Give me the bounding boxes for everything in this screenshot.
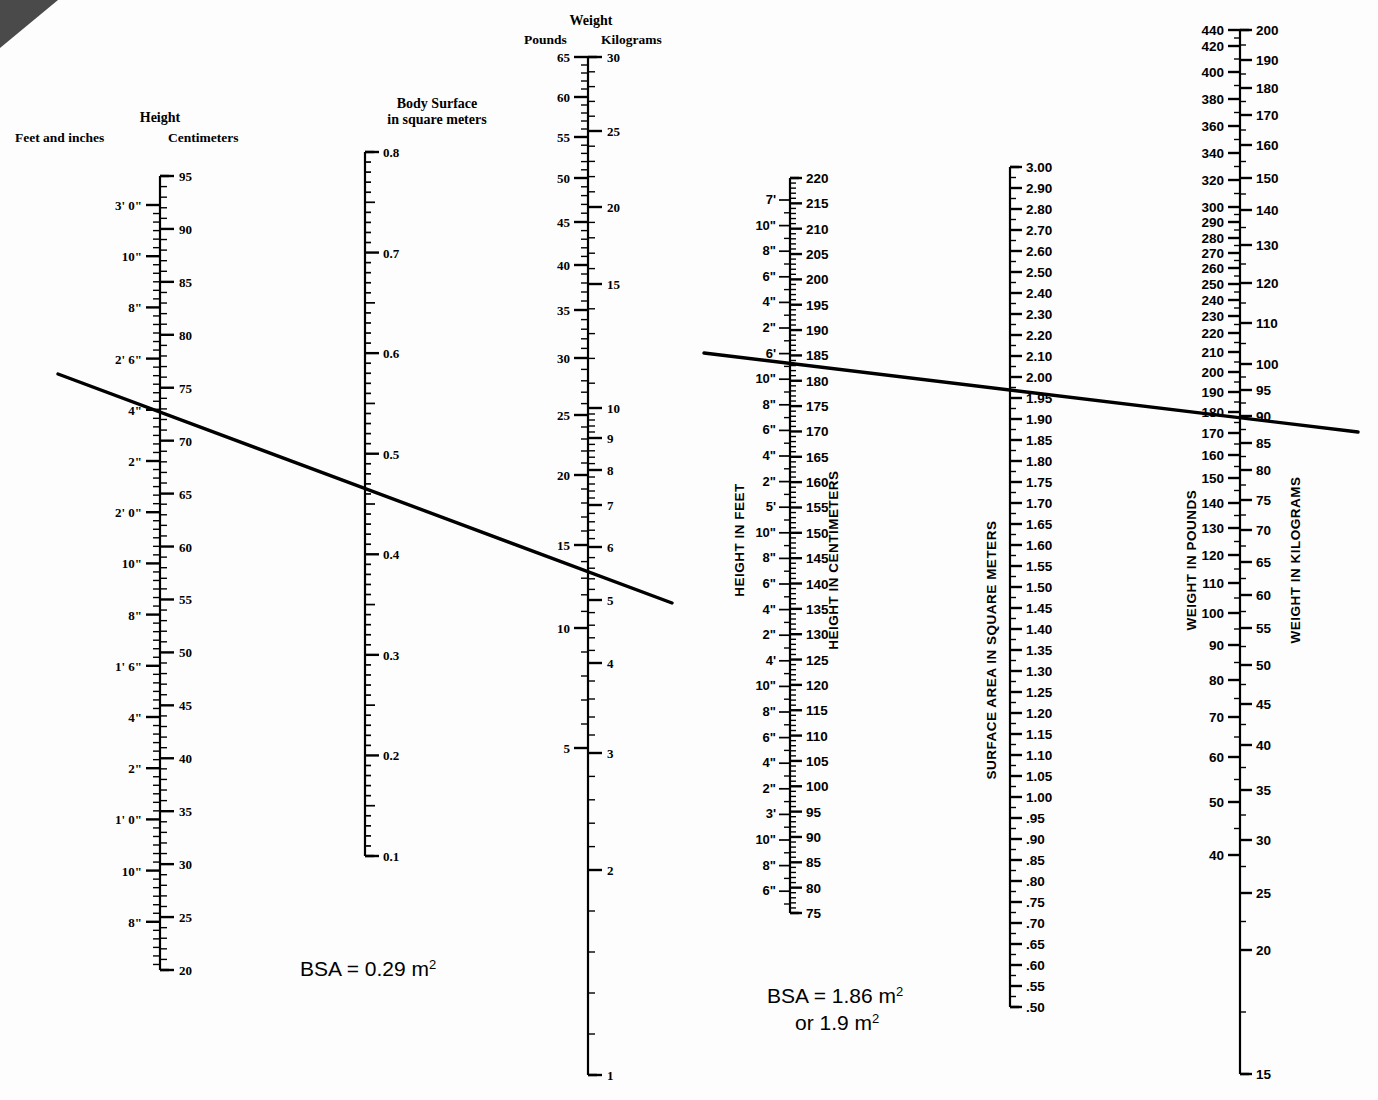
right-weight-kg-label: 15 <box>1256 1067 1272 1082</box>
left-bsa-label: 0.1 <box>383 849 399 864</box>
right-weight-kg-label: 35 <box>1256 783 1272 798</box>
right-surface-area-label: 2.20 <box>1026 328 1052 343</box>
right-weight-kg-label: 50 <box>1256 658 1271 673</box>
right-height-ft-label: 6" <box>763 269 776 284</box>
left-height-ft-label: 1' 6" <box>115 659 142 674</box>
left-bsa-label: 0.7 <box>383 246 400 261</box>
right-height-cm-label: 190 <box>806 323 829 338</box>
right-surface-area-label: 1.60 <box>1026 538 1052 553</box>
left-weight-lb-label: 10 <box>557 621 570 636</box>
right-surface-area-label: 2.00 <box>1026 370 1052 385</box>
left-height-header-title: Height <box>140 110 181 125</box>
left-weight-kg-header: Kilograms <box>601 32 662 47</box>
right-weight-lb-label: 240 <box>1201 293 1224 308</box>
right-surface-area-label: 1.70 <box>1026 496 1052 511</box>
right-height-cm-label: 175 <box>806 399 829 414</box>
right-height-cm-label: 180 <box>806 374 829 389</box>
left-weight-header-title: Weight <box>570 13 613 28</box>
right-height-ft-label: 10" <box>755 832 776 847</box>
left-height-cm-label: 50 <box>179 645 192 660</box>
left-height-ft-label: 10" <box>122 556 142 571</box>
right-surface-area-label: 1.40 <box>1026 622 1052 637</box>
left-weight-lb-header: Pounds <box>524 32 567 47</box>
right-weight-lb-label: 400 <box>1201 65 1224 80</box>
left-bsa-header-line2: in square meters <box>387 112 487 127</box>
left-bsa-label: 0.3 <box>383 648 400 663</box>
left-weight-kg-label: 7 <box>607 498 614 513</box>
right-surface-area-label: 2.40 <box>1026 286 1052 301</box>
right-height-ft-label: 4' <box>766 653 776 668</box>
right-weight-kg-label: 200 <box>1256 23 1279 38</box>
right-height-feet-axis-title: HEIGHT IN FEET <box>732 483 747 597</box>
left-height-cm-label: 65 <box>179 487 193 502</box>
left-height-ft-label: 2' 0" <box>115 505 142 520</box>
left-height-ft-label: 1' 0" <box>115 812 142 827</box>
right-surface-area-label: 2.70 <box>1026 223 1052 238</box>
right-weight-kg-label: 70 <box>1256 523 1271 538</box>
right-weight-kg-label: 85 <box>1256 436 1272 451</box>
right-height-ft-label: 8" <box>763 704 776 719</box>
left-weight-lb-label: 45 <box>557 215 571 230</box>
right-weight-lb-label: 70 <box>1209 710 1224 725</box>
left-weight-kg-label: 25 <box>607 124 621 139</box>
right-height-cm-label: 210 <box>806 222 829 237</box>
left-height-ft-label: 2" <box>128 761 142 776</box>
right-weight-lb-label: 300 <box>1201 200 1224 215</box>
right-height-cm-label: 115 <box>806 703 828 718</box>
right-surface-area-label: 1.00 <box>1026 790 1052 805</box>
left-height-cm-label: 25 <box>179 910 193 925</box>
right-weight-lb-label: 280 <box>1201 231 1224 246</box>
right-weight-kg-label: 180 <box>1256 81 1279 96</box>
right-weight-lb-label: 200 <box>1201 365 1224 380</box>
left-weight-lb-label: 5 <box>564 741 571 756</box>
right-weight-lb-label: 340 <box>1201 146 1224 161</box>
right-height-cm-label: 85 <box>806 855 822 870</box>
right-height-cm-label: 170 <box>806 424 829 439</box>
right-surface-area-label: 1.05 <box>1026 769 1053 784</box>
right-weight-lb-label: 60 <box>1209 750 1224 765</box>
right-weight-kg-label: 160 <box>1256 138 1279 153</box>
right-weight-lb-label: 120 <box>1201 548 1224 563</box>
left-weight-lb-label: 60 <box>557 90 570 105</box>
right-height-ft-label: 4" <box>763 448 776 463</box>
right-weight-lb-label: 290 <box>1201 215 1224 230</box>
right-height-ft-label: 4" <box>763 294 776 309</box>
nomogram-canvas: HeightFeet and inchesCentimetersBody Sur… <box>0 0 1378 1100</box>
right-surface-area-label: 3.00 <box>1026 160 1052 175</box>
right-height-ft-label: 5' <box>766 499 776 514</box>
right-weight-kg-label: 95 <box>1256 383 1272 398</box>
right-weight-kg-label: 140 <box>1256 203 1279 218</box>
left-height-cm-label: 55 <box>179 592 193 607</box>
right-height-ft-label: 8" <box>763 858 776 873</box>
left-weight-kg-label: 3 <box>607 746 614 761</box>
right-surface-area-label: .85 <box>1026 853 1045 868</box>
right-height-cm-axis-title: HEIGHT IN CENTIMETERS <box>826 470 841 649</box>
left-height-ft-label: 8" <box>128 608 142 623</box>
right-weight-kg-label: 120 <box>1256 276 1279 291</box>
left-height-ft-label: 2" <box>128 454 142 469</box>
right-weight-kg-label: 75 <box>1256 493 1272 508</box>
right-weight-lb-label: 320 <box>1201 173 1224 188</box>
right-surface-area-label: 1.45 <box>1026 601 1053 616</box>
right-height-ft-label: 2" <box>763 781 776 796</box>
left-height-ft-label: 3' 0" <box>115 198 142 213</box>
right-weight-lb-label: 210 <box>1201 345 1224 360</box>
left-weight-lb-label: 15 <box>557 538 571 553</box>
right-weight-kg-label: 20 <box>1256 943 1271 958</box>
left-weight-lb-label: 55 <box>557 130 571 145</box>
right-weight-kg-label: 55 <box>1256 621 1272 636</box>
left-bsa-label: 0.6 <box>383 346 400 361</box>
right-surface-area-label: 1.50 <box>1026 580 1052 595</box>
left-height-ft-label: 10" <box>122 864 142 879</box>
right-height-ft-label: 2" <box>763 320 776 335</box>
right-weight-kg-label: 40 <box>1256 738 1271 753</box>
right-surface-area-label: .70 <box>1026 916 1045 931</box>
right-height-cm-label: 125 <box>806 653 829 668</box>
right-weight-lb-label: 150 <box>1201 471 1224 486</box>
left-weight-lb-label: 65 <box>557 50 571 65</box>
left-weight-lb-label: 50 <box>557 171 570 186</box>
right-height-ft-label: 6" <box>763 883 776 898</box>
left-height-cm-label: 40 <box>179 751 192 766</box>
right-weight-lb-label: 140 <box>1201 496 1224 511</box>
left-height-cm-label: 95 <box>179 169 193 184</box>
